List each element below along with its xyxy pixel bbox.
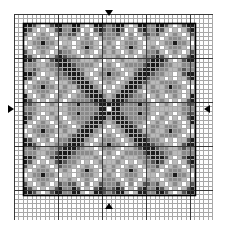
center-marker-top-icon [105,10,113,16]
graph-paper-grid [14,14,213,220]
pattern-chart [0,0,226,235]
center-marker-left-icon [8,105,14,113]
center-marker-bottom-icon [105,203,113,209]
center-marker-right-icon [204,105,210,113]
pattern-grid-canvas [14,14,213,220]
